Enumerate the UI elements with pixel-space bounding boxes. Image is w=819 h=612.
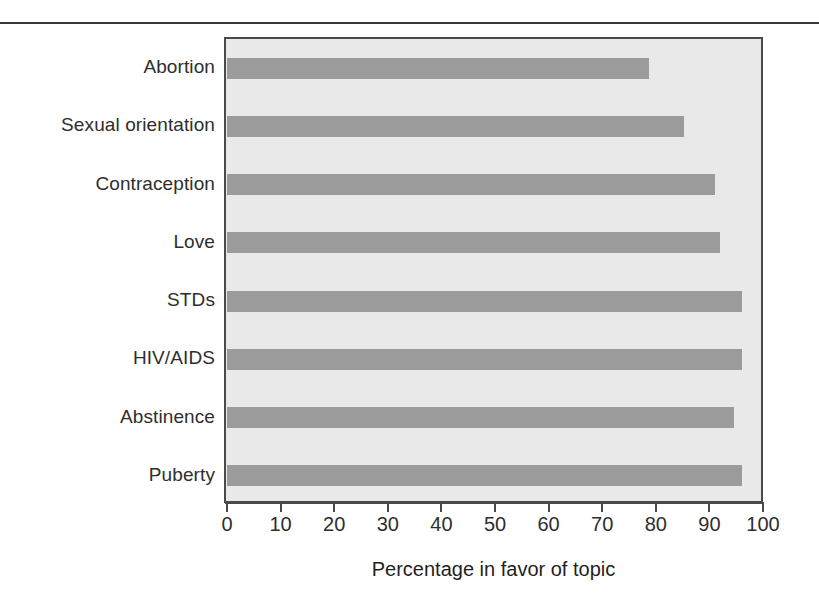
bar — [227, 232, 720, 253]
category-label: Love — [0, 232, 215, 251]
x-axis-title: Percentage in favor of topic — [224, 558, 763, 581]
bar-row — [226, 97, 761, 155]
x-axis-tick — [387, 504, 389, 512]
x-axis-tick — [548, 504, 550, 512]
x-axis-tick — [440, 504, 442, 512]
x-axis-tick-label: 100 — [746, 514, 779, 534]
bar — [227, 465, 742, 486]
category-label: Abortion — [0, 57, 215, 76]
bar — [227, 349, 742, 370]
x-axis-tick — [762, 504, 764, 512]
bar-row — [226, 214, 761, 272]
x-axis-tick-label: 90 — [698, 514, 720, 534]
bar — [227, 291, 742, 312]
x-axis-tick-label: 60 — [537, 514, 559, 534]
bar-row — [226, 389, 761, 447]
bar-row — [226, 156, 761, 214]
bar-chart-figure: AbortionSexual orientationContraceptionL… — [0, 0, 819, 612]
category-label: Sexual orientation — [0, 115, 215, 134]
bar-row — [226, 330, 761, 388]
x-axis-tick-label: 40 — [430, 514, 452, 534]
x-axis-tick — [226, 504, 228, 512]
category-label: Contraception — [0, 174, 215, 193]
top-divider-rule — [0, 22, 819, 24]
category-label: Puberty — [0, 465, 215, 484]
x-axis-tick — [494, 504, 496, 512]
x-axis-tick — [601, 504, 603, 512]
bar-row — [226, 39, 761, 97]
bar — [227, 174, 715, 195]
x-axis-tick-label: 30 — [377, 514, 399, 534]
x-axis-tick — [655, 504, 657, 512]
x-axis-tick-label: 10 — [269, 514, 291, 534]
x-axis-tick-label: 50 — [484, 514, 506, 534]
plot-area — [224, 37, 763, 503]
x-axis-tick-label: 70 — [591, 514, 613, 534]
bar — [227, 116, 684, 137]
category-label: HIV/AIDS — [0, 348, 215, 367]
x-axis-tick-label: 20 — [323, 514, 345, 534]
x-axis-tick — [333, 504, 335, 512]
x-axis-tick — [280, 504, 282, 512]
bar — [227, 58, 649, 79]
bar — [227, 407, 734, 428]
bar-row — [226, 447, 761, 505]
x-axis-tick-label: 80 — [645, 514, 667, 534]
x-axis-tick — [708, 504, 710, 512]
bar-row — [226, 272, 761, 330]
x-axis-tick-label: 0 — [221, 514, 232, 534]
category-label: STDs — [0, 290, 215, 309]
category-label: Abstinence — [0, 407, 215, 426]
